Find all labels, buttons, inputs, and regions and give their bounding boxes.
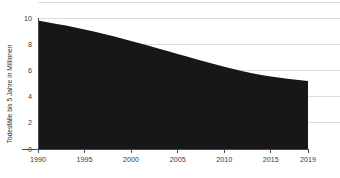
x-tick-label: 2000: [123, 155, 139, 164]
x-tick-label: 2005: [170, 155, 186, 164]
chart-container: 1990199520002005201020152019 0246810 Tod…: [0, 0, 340, 178]
y-tick-label: 0: [28, 145, 32, 154]
y-axis-ticks-group: 0246810: [24, 14, 32, 154]
x-tick-label: 2015: [263, 155, 279, 164]
y-tick-label: 8: [28, 40, 32, 49]
y-tick-label: 6: [28, 66, 32, 75]
area-series-path: [38, 21, 308, 149]
x-tick-label: 2010: [216, 155, 232, 164]
y-axis-title: Todesfälle bis 5 Jahre in Millionen: [6, 44, 13, 143]
x-tick-label: 1990: [30, 155, 46, 164]
y-tick-label: 4: [28, 92, 32, 101]
area-series-group: [38, 21, 308, 149]
y-tick-label: 10: [24, 14, 32, 23]
area-chart: 1990199520002005201020152019 0246810 Tod…: [0, 0, 340, 178]
x-tick-label: 2019: [300, 155, 316, 164]
y-tick-label: 2: [28, 118, 32, 127]
x-tick-label: 1995: [77, 155, 93, 164]
x-axis-ticks-group: 1990199520002005201020152019: [30, 149, 316, 164]
